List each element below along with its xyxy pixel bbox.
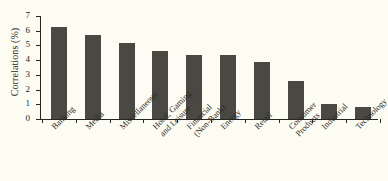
x-tick-mark [346, 119, 347, 123]
y-tick-mark: 1 [36, 104, 40, 105]
y-tick-mark: 2 [36, 90, 40, 91]
y-tick-label: 6 [26, 25, 31, 35]
x-tick-mark [42, 119, 43, 123]
y-tick-mark: 5 [36, 45, 40, 46]
y-tick-mark: 4 [36, 60, 40, 61]
y-tick-label: 2 [26, 84, 31, 94]
y-tick-mark: 3 [36, 75, 40, 76]
correlations-bar-chart: Correlations (%) 01234567 BankingMediaMi… [0, 0, 388, 181]
x-tick-mark [380, 119, 381, 123]
y-tick-label: 5 [26, 39, 31, 49]
bar [85, 35, 101, 119]
y-tick-label: 1 [26, 98, 31, 108]
y-tick-mark: 6 [36, 31, 40, 32]
y-axis-label: Correlations (%) [9, 2, 23, 122]
x-tick-mark [76, 119, 77, 123]
x-tick-mark [279, 119, 280, 123]
y-tick-label: 0 [26, 113, 31, 123]
x-tick-mark [110, 119, 111, 123]
y-axis-line [40, 16, 41, 119]
bar [51, 27, 67, 119]
y-tick-mark: 0 [36, 119, 40, 120]
x-tick-mark [143, 119, 144, 123]
x-tick-mark [245, 119, 246, 123]
y-tick-label: 3 [26, 69, 31, 79]
y-tick-mark: 7 [36, 16, 40, 17]
y-tick-label: 7 [26, 10, 31, 20]
y-tick-label: 4 [26, 54, 31, 64]
